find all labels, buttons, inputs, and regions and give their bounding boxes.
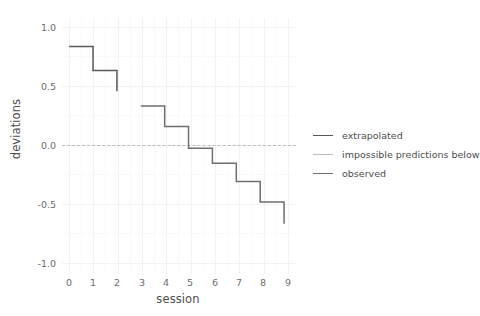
plot-panel	[62, 18, 296, 274]
y-tick-label: 0.0	[20, 140, 56, 151]
x-tick-label: 7	[229, 277, 249, 288]
y-axis-title: deviations	[9, 89, 23, 169]
x-tick-label: 9	[278, 277, 298, 288]
step-path-observed	[141, 106, 284, 224]
y-tick-label: -1.0	[20, 258, 56, 269]
y-tick-label: 1.0	[20, 22, 56, 33]
step-line-series	[62, 18, 296, 274]
legend-item-label: observed	[342, 168, 386, 179]
legend-key-icon	[313, 173, 333, 174]
legend-item-label: extrapolated	[342, 130, 403, 141]
x-tick-label: 5	[180, 277, 200, 288]
x-tick-label: 6	[205, 277, 225, 288]
x-tick-label: 3	[132, 277, 152, 288]
legend-item-extrapolated[interactable]: extrapolated	[313, 126, 465, 145]
legend-item-observed[interactable]: observed	[313, 164, 465, 183]
legend-key-icon	[313, 135, 333, 136]
x-tick-label: 0	[59, 277, 79, 288]
legend-key-icon	[313, 154, 333, 155]
x-tick-label: 8	[253, 277, 273, 288]
legend-item-label: impossible predictions below	[342, 149, 480, 160]
x-axis-title: session	[118, 292, 238, 306]
step-path-extrapolated	[69, 47, 117, 92]
legend: extrapolated impossible predictions belo…	[313, 126, 465, 183]
legend-item-impossible-predictions[interactable]: impossible predictions below	[313, 145, 465, 164]
y-tick-label: 0.5	[20, 81, 56, 92]
x-tick-label: 1	[83, 277, 103, 288]
x-tick-label: 4	[156, 277, 176, 288]
x-tick-label: 2	[107, 277, 127, 288]
y-tick-label: -0.5	[20, 199, 56, 210]
